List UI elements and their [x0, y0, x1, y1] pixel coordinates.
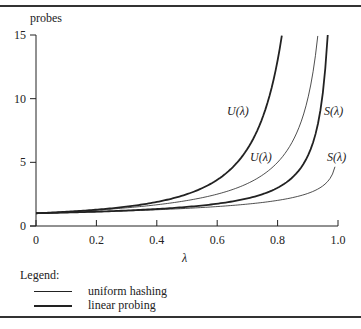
series-line: [36, 35, 328, 213]
x-tick-label: 0.2: [89, 233, 104, 247]
series-line: [36, 36, 318, 213]
legend-item-uniform-hashing: uniform hashing: [34, 284, 234, 298]
curve-label-u-uniform: U(λ): [250, 150, 272, 164]
y-ticks: 051015: [14, 28, 36, 233]
x-ticks: 00.20.40.60.81.0: [33, 220, 346, 247]
curve-label-u-linear: U(λ): [227, 104, 249, 118]
curve-label-s-uniform: S(λ): [327, 150, 346, 164]
legend-label: linear probing: [88, 298, 156, 312]
x-axis-label: λ: [181, 251, 187, 265]
x-tick-label: 0.8: [270, 233, 285, 247]
legend-label: uniform hashing: [88, 284, 167, 298]
thin-line-swatch: [34, 291, 72, 292]
legend-title: Legend:: [20, 268, 59, 283]
y-axis-label: probes: [30, 11, 62, 25]
y-tick-label: 15: [14, 28, 26, 42]
x-tick-label: 0.6: [210, 233, 225, 247]
legend-item-linear-probing: linear probing: [34, 298, 234, 312]
y-tick-label: 0: [20, 219, 26, 233]
y-tick-label: 5: [20, 155, 26, 169]
curves: [36, 35, 335, 213]
x-tick-label: 1.0: [331, 233, 346, 247]
series-line: [36, 36, 282, 214]
curve-label-s-linear: S(λ): [324, 104, 343, 118]
y-tick-label: 10: [14, 92, 26, 106]
x-tick-label: 0.4: [149, 233, 164, 247]
x-tick-label: 0: [33, 233, 39, 247]
thick-line-swatch: [34, 305, 72, 307]
